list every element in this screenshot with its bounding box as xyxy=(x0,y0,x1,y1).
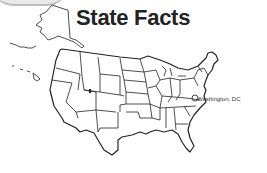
state-border xyxy=(184,106,190,116)
great-lakes xyxy=(162,66,186,76)
state-border xyxy=(162,96,200,100)
state-border xyxy=(52,80,78,118)
state-border xyxy=(174,108,176,130)
state-hawaii[interactable] xyxy=(12,66,40,81)
page-title: State Facts xyxy=(76,5,190,31)
state-border xyxy=(120,58,126,112)
state-border xyxy=(80,52,96,110)
lake-marker xyxy=(89,89,91,93)
state-border xyxy=(126,104,152,118)
state-border xyxy=(124,80,146,82)
alaska-islands xyxy=(10,43,36,48)
state-border xyxy=(96,110,118,132)
state-border xyxy=(194,68,208,78)
state-border xyxy=(156,86,162,108)
state-border xyxy=(160,106,196,108)
us-outline xyxy=(50,49,218,155)
dc-label: Washington, DC xyxy=(197,96,240,102)
state-border xyxy=(180,78,198,86)
state-border xyxy=(122,70,144,72)
state-border xyxy=(98,57,100,74)
state-border xyxy=(126,92,150,104)
state-border xyxy=(140,59,148,94)
state-border xyxy=(100,92,124,96)
state-border xyxy=(56,68,80,90)
